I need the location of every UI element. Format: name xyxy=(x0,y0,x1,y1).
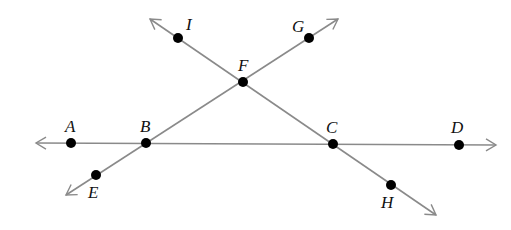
point-label: E xyxy=(87,183,99,202)
point-label: I xyxy=(185,15,193,34)
point-dot-icon xyxy=(238,77,248,87)
point-dot-icon xyxy=(141,138,151,148)
geometry-figure: ABCDEFGHI xyxy=(0,0,511,230)
point-dot-icon xyxy=(304,33,314,43)
point-dot-icon xyxy=(386,180,396,190)
lines-group xyxy=(36,19,496,215)
line-EG-segment xyxy=(66,19,338,195)
line-AD xyxy=(36,137,496,151)
line-AD-segment xyxy=(36,143,496,145)
point-B: B xyxy=(140,117,151,148)
point-dot-icon xyxy=(454,140,464,150)
point-F: F xyxy=(237,56,249,87)
point-label: G xyxy=(292,17,304,36)
point-label: B xyxy=(140,117,151,136)
point-label: D xyxy=(450,118,464,137)
point-label: F xyxy=(237,56,249,75)
line-EG xyxy=(66,19,338,195)
point-G: G xyxy=(292,17,314,43)
point-dot-icon xyxy=(66,138,76,148)
point-dot-icon xyxy=(173,33,183,43)
point-label: C xyxy=(326,118,338,137)
point-dot-icon xyxy=(328,139,338,149)
point-H: H xyxy=(380,180,396,212)
point-I: I xyxy=(173,15,193,43)
point-label: H xyxy=(380,193,395,212)
point-E: E xyxy=(87,170,101,202)
point-dot-icon xyxy=(91,170,101,180)
point-label: A xyxy=(64,117,76,136)
points-group: ABCDEFGHI xyxy=(64,15,464,212)
